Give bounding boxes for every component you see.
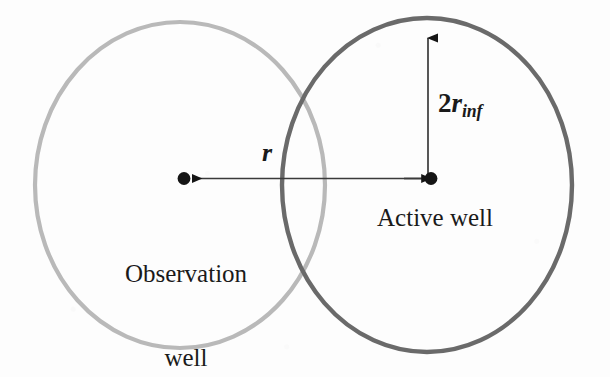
influence-label-subscript: inf	[462, 101, 482, 121]
influence-2rinf-label: 2rinf	[438, 88, 482, 122]
observation-well-marker	[178, 172, 191, 185]
observation-well-label: Observation well	[86, 204, 286, 377]
influence-label-prefix: 2	[438, 88, 452, 118]
influence-label-variable: r	[452, 88, 463, 118]
active-well-label: Active well	[350, 204, 520, 232]
well-interference-diagram: Observation well Active well r 2rinf	[0, 0, 610, 377]
active-well-marker	[425, 172, 438, 185]
observation-well-label-line2: well	[86, 344, 286, 372]
distance-r-label: r	[262, 138, 272, 167]
observation-well-label-line1: Observation	[86, 260, 286, 288]
